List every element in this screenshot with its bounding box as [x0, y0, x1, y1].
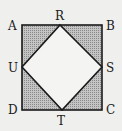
- label-c: C: [106, 103, 115, 117]
- label-t: T: [57, 114, 65, 128]
- geometry-diagram: A R B U S D T C: [0, 0, 122, 131]
- label-d: D: [8, 103, 18, 117]
- label-a: A: [7, 19, 17, 33]
- label-b: B: [106, 19, 115, 33]
- label-u: U: [8, 61, 18, 75]
- label-s: S: [106, 61, 114, 75]
- label-r: R: [55, 9, 65, 23]
